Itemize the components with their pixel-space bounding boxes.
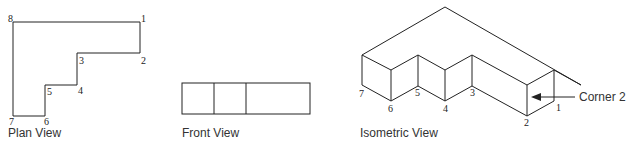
iso-point-4: 4: [443, 104, 448, 114]
iso-point-1: 1: [556, 103, 561, 113]
front-view-caption: Front View: [182, 126, 239, 140]
plan-view-outline: [13, 22, 140, 116]
orthographic-drawing: [0, 0, 638, 151]
arrowhead-icon: [531, 93, 541, 101]
iso-point-2: 2: [524, 118, 529, 128]
plan-view-caption: Plan View: [8, 126, 61, 140]
isometric-view-caption: Isometric View: [360, 126, 438, 140]
plan-point-8: 8: [8, 14, 13, 24]
plan-point-1: 1: [141, 14, 146, 24]
plan-point-2: 2: [141, 56, 146, 66]
corner-2-annotation: Corner 2: [579, 90, 626, 104]
iso-point-6: 6: [388, 104, 393, 114]
plan-point-3: 3: [79, 56, 84, 66]
iso-point-7: 7: [359, 89, 364, 99]
iso-point-3: 3: [470, 88, 475, 98]
plan-point-5: 5: [47, 87, 52, 97]
plan-point-4: 4: [78, 86, 83, 96]
isometric-view: [362, 7, 581, 116]
iso-point-5: 5: [415, 88, 420, 98]
